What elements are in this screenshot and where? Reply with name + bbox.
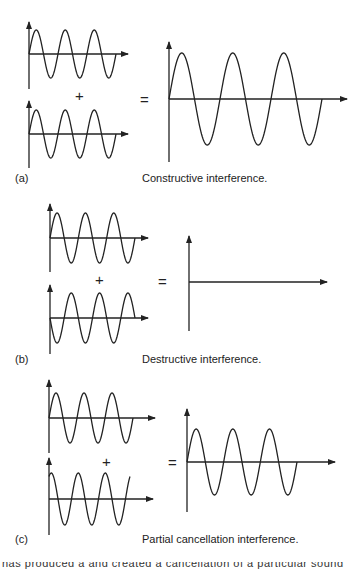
- panel-label-b: (b): [15, 353, 28, 365]
- caption-partial-cancellation: Partial cancellation interference.: [142, 533, 299, 545]
- equals-sign: =: [140, 92, 149, 107]
- panel-label-c: (c): [15, 533, 28, 545]
- plus-sign: +: [75, 88, 84, 103]
- plus-sign: +: [95, 272, 104, 287]
- plus-sign: +: [102, 454, 111, 469]
- panel-label-a: (a): [15, 172, 28, 184]
- cropped-footer-text: has produced a and created a cancellatio…: [0, 562, 361, 569]
- caption-destructive: Destructive interference.: [142, 353, 261, 365]
- equals-sign: =: [158, 274, 167, 289]
- interference-diagram: [0, 0, 361, 569]
- caption-constructive: Constructive interference.: [142, 172, 267, 184]
- equals-sign: =: [168, 455, 177, 470]
